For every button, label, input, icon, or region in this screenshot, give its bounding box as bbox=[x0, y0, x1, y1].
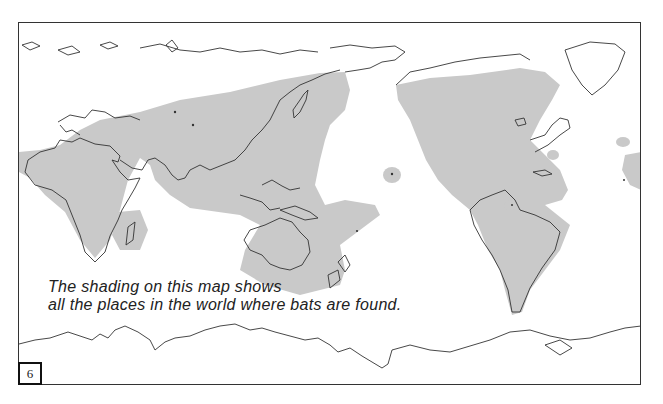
caption-line-2: all the places in the world where bats a… bbox=[48, 296, 402, 314]
page-number: 6 bbox=[18, 362, 42, 385]
world-map bbox=[0, 0, 663, 404]
caption-line-1: The shading on this map shows bbox=[48, 278, 402, 296]
map-caption: The shading on this map shows all the pl… bbox=[48, 278, 402, 314]
